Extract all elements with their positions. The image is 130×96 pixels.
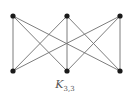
node-u1 xyxy=(10,13,15,18)
node-u2 xyxy=(64,13,69,18)
node-v1 xyxy=(10,68,15,73)
graph-label-main: K xyxy=(55,78,63,91)
graph-label: K3,3 xyxy=(0,78,130,93)
node-u3 xyxy=(117,13,122,18)
node-v2 xyxy=(64,68,69,73)
node-v3 xyxy=(117,68,122,73)
graph-label-subscript: 3,3 xyxy=(64,85,75,93)
graph-edges xyxy=(13,16,120,71)
